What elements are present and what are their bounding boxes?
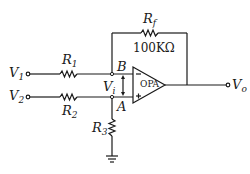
r2-resistor [60, 94, 77, 100]
v1-terminal [26, 72, 30, 76]
r1-label: R1 [62, 53, 78, 69]
v2-terminal [26, 95, 30, 99]
opamp-label: OPA [140, 80, 159, 89]
ground-icon [106, 156, 118, 162]
r3-resistor [109, 119, 115, 136]
node-b-label: B [117, 60, 127, 73]
r1-resistor [60, 71, 77, 77]
node-a-label: A [117, 100, 126, 113]
vo-label: Vo [232, 78, 247, 94]
r2-label: R2 [62, 104, 78, 120]
rf-resistor [141, 30, 158, 36]
v1-label: V1 [9, 66, 24, 82]
rf-value: 100KΩ [133, 42, 175, 54]
vi-label: Vi [103, 80, 115, 96]
node-b [110, 72, 113, 75]
r3-label: R3 [92, 121, 108, 137]
rf-label: Rf [143, 12, 156, 28]
vo-terminal [226, 83, 230, 87]
circuit-diagram: V1 V2 Vo R1 R2 R3 Rf 100KΩ B A Vi OPA [0, 0, 250, 174]
v2-label: V2 [9, 89, 24, 105]
circuit-schematic [0, 0, 250, 174]
